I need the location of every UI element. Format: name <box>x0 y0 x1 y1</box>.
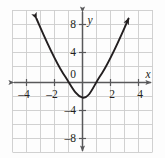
x-tick-label-neg2: –2 <box>45 88 58 100</box>
y-tick-label-neg4: –4 <box>64 104 77 116</box>
x-tick-label-neg4: –4 <box>17 88 30 100</box>
y-tick-label-0: 0 <box>70 68 76 80</box>
x-tick-label-4: 4 <box>137 88 143 100</box>
y-tick-label-4: 4 <box>70 46 76 58</box>
y-axis-label: y <box>86 14 93 27</box>
x-axis-label: x <box>144 68 151 80</box>
y-tick-label-neg8: –8 <box>64 132 77 144</box>
coordinate-graph-figure: –4 –2 2 4 8 4 0 –4 –8 y x <box>0 0 165 158</box>
graph-canvas: –4 –2 2 4 8 4 0 –4 –8 y x <box>0 0 165 158</box>
y-tick-label-8: 8 <box>70 18 76 30</box>
x-tick-label-2: 2 <box>109 88 115 100</box>
